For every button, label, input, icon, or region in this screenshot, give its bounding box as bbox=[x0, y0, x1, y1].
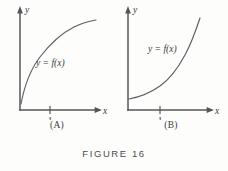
panel-b: y x 1 y = f(x) (B) bbox=[114, 0, 228, 140]
plot-a: y x 1 y = f(x) bbox=[0, 0, 114, 120]
panels-row: y x 1 y = f(x) (A) y bbox=[0, 0, 228, 140]
plot-b: y x 1 y = f(x) bbox=[114, 0, 228, 120]
panel-a: y x 1 y = f(x) (A) bbox=[0, 0, 114, 140]
figure-caption: FIGURE 16 bbox=[0, 148, 228, 159]
curve-label-b: y = f(x) bbox=[147, 44, 177, 55]
y-axis-arrow-a bbox=[17, 6, 23, 13]
x-axis-arrow-a bbox=[95, 107, 102, 113]
y-axis-label-a: y bbox=[24, 5, 30, 15]
panel-sublabel-a: (A) bbox=[0, 120, 114, 130]
x-axis-label-b: x bbox=[214, 106, 220, 116]
curve-b bbox=[129, 18, 200, 99]
x-axis-label-a: x bbox=[102, 106, 108, 116]
curve-label-a: y = f(x) bbox=[35, 58, 65, 69]
panel-sublabel-b: (B) bbox=[114, 120, 228, 130]
figure-16: y x 1 y = f(x) (A) y bbox=[0, 0, 228, 171]
y-axis-label-b: y bbox=[132, 5, 138, 15]
y-axis-arrow-b bbox=[125, 6, 131, 13]
x-axis-arrow-b bbox=[207, 107, 214, 113]
